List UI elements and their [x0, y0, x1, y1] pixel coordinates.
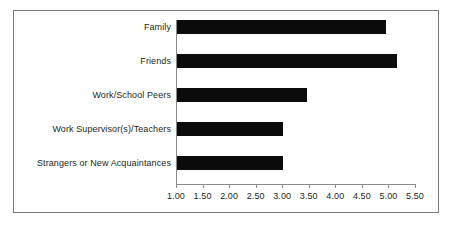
bar-work-supervisors-teachers	[176, 122, 283, 136]
x-tick-label: 5.50	[406, 191, 424, 202]
x-tick-mark	[335, 184, 336, 188]
category-label-work-supervisors-teachers: Work Supervisor(s)/Teachers	[0, 122, 171, 136]
x-tick-label: 3.00	[273, 191, 291, 202]
bar-chart: Family Friends Work/School Peers Work Su…	[0, 0, 451, 227]
x-tick-mark	[176, 184, 177, 188]
x-tick-mark	[203, 184, 204, 188]
category-axis-line	[176, 184, 416, 185]
bar-friends	[176, 54, 397, 68]
category-label-strangers-new-acquaintances: Strangers or New Acquaintances	[0, 156, 171, 170]
x-tick-label: 4.50	[353, 191, 371, 202]
bar-work-school-peers	[176, 88, 307, 102]
category-axis-labels: Family Friends Work/School Peers Work Su…	[0, 20, 171, 184]
plot-area	[176, 20, 415, 184]
x-tick-mark	[415, 184, 416, 188]
bar-strangers-new-acquaintances	[176, 156, 283, 170]
category-label-family: Family	[0, 20, 171, 34]
x-tick-label: 2.50	[247, 191, 265, 202]
x-tick-mark	[256, 184, 257, 188]
x-tick-label: 5.00	[379, 191, 397, 202]
x-tick-label: 1.00	[167, 191, 185, 202]
x-tick-label: 3.50	[300, 191, 318, 202]
category-label-friends: Friends	[0, 54, 171, 68]
value-axis-line	[176, 20, 177, 184]
x-tick-label: 1.50	[194, 191, 212, 202]
bar-family	[176, 20, 386, 34]
x-tick-mark	[388, 184, 389, 188]
x-tick-mark	[229, 184, 230, 188]
x-tick-mark	[309, 184, 310, 188]
x-tick-label: 4.00	[326, 191, 344, 202]
category-label-work-school-peers: Work/School Peers	[0, 88, 171, 102]
x-tick-label: 2.00	[220, 191, 238, 202]
x-tick-mark	[282, 184, 283, 188]
x-tick-mark	[362, 184, 363, 188]
